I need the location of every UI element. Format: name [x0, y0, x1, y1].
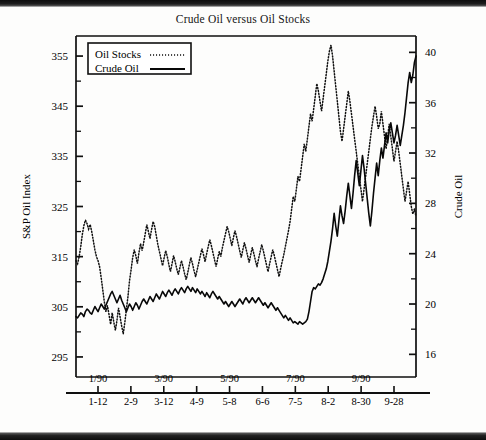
series-crude-oil: [76, 56, 416, 324]
y-axis-left-tick: 305: [52, 301, 69, 313]
x-axis-tick-major: 9/90: [352, 373, 371, 384]
y-axis-left-tick: 325: [52, 201, 69, 213]
y-axis-right-label: Crude Oil: [452, 175, 464, 219]
y-axis-right-tick: 24: [425, 248, 437, 260]
x-axis-tick-minor: 7-5: [288, 396, 302, 407]
x-axis-tick-minor: 1-12: [88, 396, 107, 407]
series-oil-stocks: [76, 45, 416, 334]
chart-legend[interactable]: Oil StocksCrude Oil: [88, 43, 191, 74]
chart-canvas: 295305315325335345355162024283236401-122…: [0, 0, 486, 440]
y-axis-right-tick: 36: [425, 97, 437, 109]
y-axis-left-tick: 295: [52, 351, 69, 363]
x-axis-tick-minor: 3-12: [154, 396, 173, 407]
chart-figure: 295305315325335345355162024283236401-122…: [0, 0, 486, 440]
x-axis-tick-minor: 8-30: [351, 396, 370, 407]
y-axis-left-label: S&P Oil Index: [20, 174, 32, 239]
legend-label-oil-stocks: Oil Stocks: [95, 48, 141, 60]
x-axis-tick-minor: 2-9: [124, 396, 138, 407]
x-axis-tick-major: 7/90: [286, 373, 305, 384]
x-axis-tick-minor: 5-8: [223, 396, 237, 407]
x-axis-tick-minor: 6-6: [255, 396, 269, 407]
x-axis-tick-major: 1/90: [89, 373, 108, 384]
y-axis-left-tick: 355: [52, 50, 69, 62]
y-axis-right-tick: 20: [425, 298, 437, 310]
y-axis-right-tick: 28: [425, 197, 437, 209]
x-axis-tick-minor: 8-2: [321, 396, 335, 407]
legend-label-crude-oil: Crude Oil: [95, 62, 139, 74]
y-axis-left-tick: 335: [52, 150, 69, 162]
x-axis-tick-major: 3/90: [154, 373, 173, 384]
y-axis-right-tick: 16: [425, 348, 437, 360]
series-lines: [76, 45, 416, 334]
y-axis-right-tick: 40: [425, 46, 437, 58]
y-axis-left-tick: 345: [52, 100, 69, 112]
scanned-page: Crude Oil versus Oil Stocks 295305315325…: [0, 0, 486, 440]
y-axis-left-tick: 315: [52, 251, 69, 263]
x-axis-tick-major: 5/90: [220, 373, 239, 384]
x-axis-tick-minor: 9-28: [384, 396, 403, 407]
y-axis-right-tick: 32: [425, 147, 436, 159]
axes: 295305315325335345355162024283236401-122…: [52, 36, 437, 407]
x-axis-tick-minor: 4-9: [190, 396, 204, 407]
